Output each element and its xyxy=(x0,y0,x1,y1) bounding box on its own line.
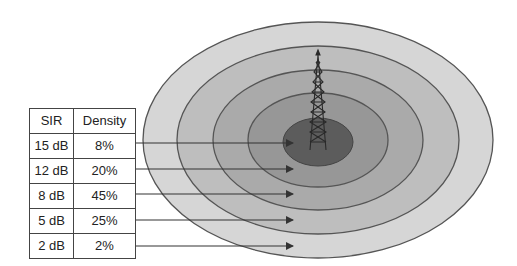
cell-density: 20% xyxy=(74,159,136,184)
cell-sir: 15 dB xyxy=(30,134,74,159)
cell-density: 45% xyxy=(74,184,136,209)
table-row: 8 dB 45% xyxy=(30,184,136,209)
table-header-row: SIR Density xyxy=(30,109,136,134)
sir-density-table: SIR Density 15 dB 8% 12 dB 20% 8 dB 45% … xyxy=(29,108,136,259)
table-row: 5 dB 25% xyxy=(30,209,136,234)
cell-density: 25% xyxy=(74,209,136,234)
table-row: 12 dB 20% xyxy=(30,159,136,184)
cell-density: 8% xyxy=(74,134,136,159)
cell-density: 2% xyxy=(74,234,136,259)
cell-sir: 5 dB xyxy=(30,209,74,234)
table-row: 2 dB 2% xyxy=(30,234,136,259)
cell-sir: 2 dB xyxy=(30,234,74,259)
cell-sir: 12 dB xyxy=(30,159,74,184)
header-sir: SIR xyxy=(30,109,74,134)
cell-sir: 8 dB xyxy=(30,184,74,209)
table-row: 15 dB 8% xyxy=(30,134,136,159)
header-density: Density xyxy=(74,109,136,134)
